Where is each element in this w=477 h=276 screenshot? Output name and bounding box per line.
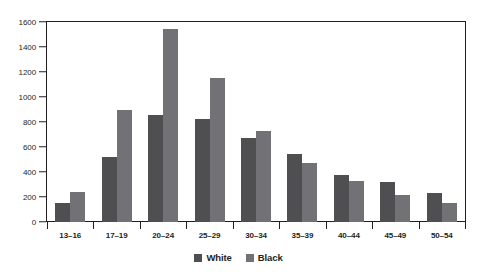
y-tick-mark — [39, 96, 46, 97]
y-tick-label: 1200 — [19, 68, 36, 77]
bar-black-40-44 — [349, 181, 364, 222]
y-tick-mark — [39, 121, 46, 122]
legend-swatch-black-icon — [246, 254, 254, 262]
y-tick-label: 400 — [23, 168, 36, 177]
bar-group — [55, 22, 85, 222]
x-tick-mark — [279, 222, 280, 229]
bars-layer — [47, 22, 465, 222]
x-tick-mark — [93, 222, 94, 229]
bar-black-30-34 — [256, 131, 271, 222]
bar-group — [195, 22, 225, 222]
x-tick-mark — [47, 222, 48, 229]
x-axis-label: 35–39 — [292, 231, 314, 240]
bar-black-20-24 — [163, 29, 178, 222]
y-tick-label: 1000 — [19, 93, 36, 102]
bar-black-50-54 — [442, 203, 457, 222]
y-tick-label: 800 — [23, 118, 36, 127]
x-tick-mark — [186, 222, 187, 229]
bar-chart: 02004006008001000120014001600 13–1617–19… — [0, 0, 477, 276]
x-axis-ticks — [47, 222, 465, 230]
bar-black-35-39 — [302, 163, 317, 222]
bar-group — [241, 22, 271, 222]
bar-black-13-16 — [70, 192, 85, 222]
legend-item-black: Black — [246, 252, 283, 263]
y-tick-label: 1600 — [19, 18, 36, 27]
bar-group — [102, 22, 132, 222]
x-axis-label: 30–34 — [245, 231, 267, 240]
y-tick-label: 200 — [23, 193, 36, 202]
bar-white-25-29 — [195, 119, 210, 222]
bar-white-20-24 — [148, 115, 163, 222]
y-tick-mark — [39, 196, 46, 197]
y-tick-label: 1400 — [19, 43, 36, 52]
y-tick-mark — [39, 146, 46, 147]
y-tick-mark — [39, 46, 46, 47]
x-tick-mark — [465, 222, 466, 229]
bar-group — [427, 22, 457, 222]
x-axis-label: 40–44 — [338, 231, 360, 240]
y-tick-mark — [39, 171, 46, 172]
x-axis-label: 20–24 — [152, 231, 174, 240]
chart-legend: White Black — [0, 252, 477, 263]
legend-item-white: White — [194, 252, 231, 263]
bar-white-17-19 — [102, 157, 117, 222]
x-tick-mark — [372, 222, 373, 229]
bar-white-35-39 — [287, 154, 302, 222]
y-tick-label: 0 — [32, 218, 36, 227]
x-axis-label: 13–16 — [59, 231, 81, 240]
bar-black-17-19 — [117, 110, 132, 223]
x-axis-label: 17–19 — [106, 231, 128, 240]
x-axis-label: 25–29 — [199, 231, 221, 240]
y-tick-mark — [39, 71, 46, 72]
bar-white-50-54 — [427, 193, 442, 222]
bar-white-45-49 — [380, 182, 395, 222]
x-axis-label: 50–54 — [431, 231, 453, 240]
bar-group — [334, 22, 364, 222]
x-tick-mark — [326, 222, 327, 229]
bar-group — [148, 22, 178, 222]
bar-group — [287, 22, 317, 222]
x-tick-mark — [419, 222, 420, 229]
x-tick-mark — [233, 222, 234, 229]
x-tick-mark — [140, 222, 141, 229]
bar-white-13-16 — [55, 203, 70, 222]
legend-label-white: White — [206, 252, 231, 263]
legend-label-black: Black — [258, 252, 283, 263]
x-axis-label: 45–49 — [384, 231, 406, 240]
x-axis-labels: 13–1617–1920–2425–2930–3435–3940–4445–49… — [47, 231, 465, 245]
legend-swatch-white-icon — [194, 254, 202, 262]
y-tick-mark — [39, 221, 46, 222]
bar-group — [380, 22, 410, 222]
bar-white-30-34 — [241, 138, 256, 222]
y-axis: 02004006008001000120014001600 — [0, 21, 36, 222]
bar-white-40-44 — [334, 175, 349, 223]
bar-black-25-29 — [210, 78, 225, 222]
bar-black-45-49 — [395, 195, 410, 222]
y-tick-mark — [39, 21, 46, 22]
y-tick-label: 600 — [23, 143, 36, 152]
